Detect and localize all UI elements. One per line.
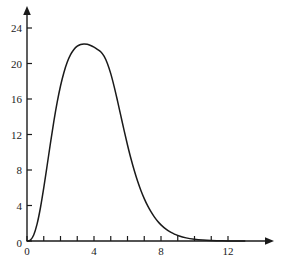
y-tick-label-24: 24 [0,23,22,34]
y-tick-label-16: 16 [0,94,22,105]
chart-figure: 0 4 8 12 0 4 8 12 16 20 24 [0,0,282,264]
y-tick-label-4: 4 [0,200,22,211]
x-tick-label-0: 0 [24,246,30,257]
x-tick-label-8: 8 [158,246,164,257]
x-tick-label-12: 12 [223,246,234,257]
y-tick-label-20: 20 [0,58,22,69]
y-tick-label-8: 8 [0,165,22,176]
data-curve [27,44,245,241]
x-axis-arrow-icon [265,237,274,245]
chart-canvas [0,0,282,264]
y-axis-arrow-icon [23,6,31,15]
y-tick-label-0: 0 [0,238,22,249]
y-axis-ticks [27,28,32,241]
x-tick-label-4: 4 [91,246,97,257]
y-tick-label-12: 12 [0,129,22,140]
